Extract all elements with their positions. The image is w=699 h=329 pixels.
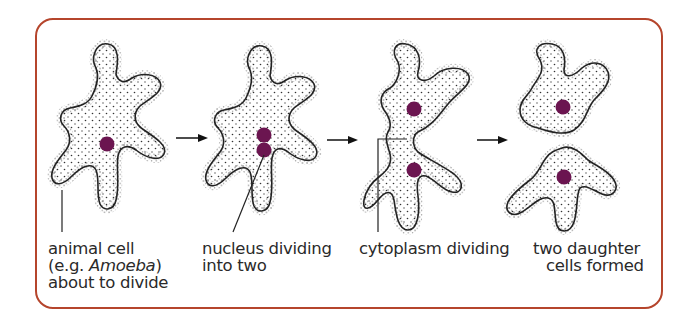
arrow-icon [477,136,508,144]
nucleus-bottom [407,163,422,178]
amoeba-cell-stage-1 [52,44,165,209]
label-stage-2-line-2: into two [202,257,332,274]
label-stage-2: nucleus dividing into two [202,240,332,274]
amoeba-cell-stage-3 [364,44,470,230]
label-stage-4-line-1: two daughter [533,240,644,257]
nucleus [556,100,571,115]
label-stage-1-line-1: animal cell [48,240,168,257]
nucleus-top [407,102,422,117]
label-stage-3: cytoplasm dividing [359,240,509,257]
arrow-icon [327,136,358,144]
label-stage-3-line-1: cytoplasm dividing [359,240,509,257]
label-stage-1-line-3: about to divide [48,274,168,291]
label-stage-1-line-2: (e.g. Amoeba) [48,257,168,274]
label-stage-2-line-1: nucleus dividing [202,240,332,257]
label-stage-4-line-2: cells formed [533,257,644,274]
arrow-icon [176,134,208,142]
nucleus [100,137,115,152]
nucleus-dividing-top [257,128,272,143]
daughter-cell-bottom [507,147,616,231]
daughter-cell-top [520,44,609,133]
amoeba-cell-stage-2 [206,46,317,211]
nucleus [557,170,572,185]
label-stage-4: two daughter cells formed [533,240,644,274]
label-stage-1: animal cell (e.g. Amoeba) about to divid… [48,240,168,291]
